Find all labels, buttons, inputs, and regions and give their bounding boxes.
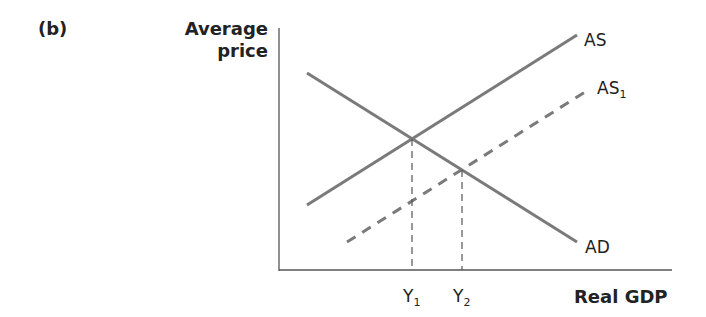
ad-label: AD [585,237,610,257]
as-curve [307,35,577,205]
as1-label: AS1 [597,78,626,101]
as1-curve [347,92,585,242]
as-label: AS [584,30,606,50]
y2-tick-label: Y2 [453,286,470,309]
y1-tick-label: Y1 [403,286,420,309]
x-axis-label: Real GDP [574,286,668,307]
ad-curve [307,73,577,242]
